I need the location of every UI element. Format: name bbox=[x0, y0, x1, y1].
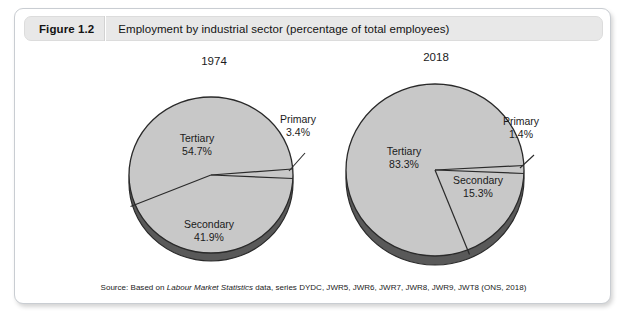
pie-label-primary-1974-name: Primary bbox=[280, 113, 316, 125]
pie-label-primary-2018: Primary 1.4% bbox=[490, 115, 552, 141]
pie-label-tertiary-2018-name: Tertiary bbox=[387, 145, 421, 157]
pie-chart-1974: Tertiary 54.7% Secondary 41.9% Primary 3… bbox=[119, 75, 319, 275]
pie-label-secondary-2018: Secondary 15.3% bbox=[426, 174, 530, 200]
pie-chart-1974-svg bbox=[119, 75, 319, 275]
pie-label-primary-1974: Primary 3.4% bbox=[267, 113, 329, 139]
figure-header: Figure 1.2 Employment by industrial sect… bbox=[24, 16, 603, 41]
source-publication: Labour Market Statistics bbox=[167, 283, 253, 292]
pie-label-tertiary-2018: Tertiary 83.3% bbox=[358, 145, 450, 171]
pie-label-primary-2018-value: 1.4% bbox=[490, 128, 552, 141]
pie-label-tertiary-1974-name: Tertiary bbox=[180, 132, 214, 144]
chart-title-2018: 2018 bbox=[386, 51, 486, 63]
figure-card: Figure 1.2 Employment by industrial sect… bbox=[14, 8, 611, 304]
pie-label-tertiary-1974-value: 54.7% bbox=[151, 145, 243, 158]
pie-chart-2018: Tertiary 83.3% Secondary 15.3% Primary 1… bbox=[334, 69, 544, 279]
pie-label-secondary-1974-value: 41.9% bbox=[157, 231, 261, 244]
source-note: Source: Based on Labour Market Statistic… bbox=[24, 283, 603, 292]
figure-number: Figure 1.2 bbox=[25, 23, 104, 35]
pie-label-primary-2018-name: Primary bbox=[503, 115, 539, 127]
pie-label-secondary-2018-name: Secondary bbox=[453, 174, 503, 186]
plot-area: 1974 Tertiary 54.7% Secon bbox=[24, 43, 603, 296]
figure-title: Employment by industrial sector (percent… bbox=[106, 23, 449, 35]
source-prefix: Source: Based on bbox=[101, 283, 167, 292]
source-suffix: data, series DYDC, JWR5, JWR6, JWR7, JWR… bbox=[253, 283, 526, 292]
pie-label-secondary-2018-value: 15.3% bbox=[426, 187, 530, 200]
pie-label-tertiary-2018-value: 83.3% bbox=[358, 158, 450, 171]
pie-label-tertiary-1974: Tertiary 54.7% bbox=[151, 132, 243, 158]
pie-label-primary-1974-value: 3.4% bbox=[267, 126, 329, 139]
chart-title-1974: 1974 bbox=[164, 55, 264, 67]
pie-label-secondary-1974-name: Secondary bbox=[184, 218, 234, 230]
pie-label-secondary-1974: Secondary 41.9% bbox=[157, 218, 261, 244]
